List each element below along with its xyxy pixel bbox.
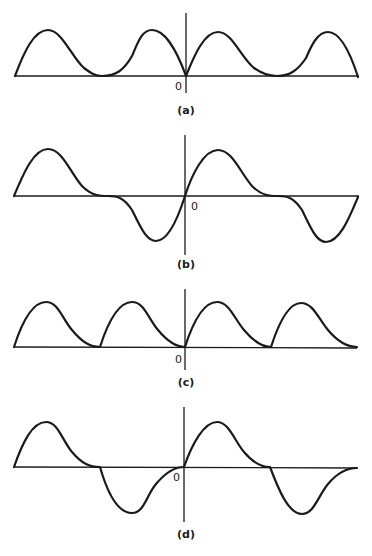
panel-b: 0 (b) [14, 135, 359, 271]
panel-a: 0 (a) [15, 13, 359, 117]
panel-caption: (b) [177, 258, 195, 271]
origin-label: 0 [191, 200, 198, 213]
panel-c: 0 (c) [14, 289, 357, 389]
origin-label: 0 [175, 80, 182, 93]
panel-caption: (c) [178, 376, 195, 389]
panel-caption: (d) [177, 528, 195, 541]
origin-label: 0 [173, 471, 180, 484]
panel-d: 0 (d) [14, 407, 357, 541]
origin-label: 0 [175, 353, 182, 366]
panel-caption: (a) [177, 104, 194, 117]
horizontal-axis [14, 467, 357, 468]
waveform-figure: 0 (a) 0 (b) 0 (c) 0 (d) [0, 0, 372, 556]
